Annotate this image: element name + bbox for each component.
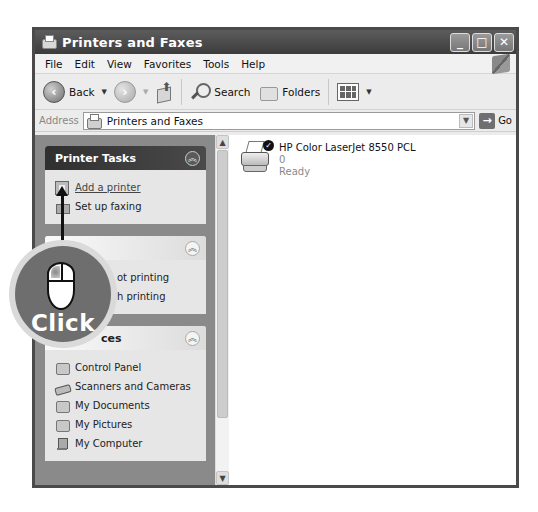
window-title: Printers and Faxes <box>62 35 203 50</box>
printer-status: Ready <box>279 166 416 178</box>
click-label: Click <box>17 310 109 336</box>
folders-button[interactable]: Folders <box>254 83 324 101</box>
task-label: Scanners and Cameras <box>75 381 191 392</box>
my-documents-link[interactable]: My Documents <box>55 396 198 415</box>
back-button[interactable]: ‹ Back <box>39 81 99 103</box>
menu-tools[interactable]: Tools <box>197 58 235 70</box>
printers-folder-icon <box>41 35 57 49</box>
default-printer-check-icon: ✓ <box>263 140 274 151</box>
menu-help[interactable]: Help <box>235 58 271 70</box>
computer-icon <box>55 437 69 451</box>
menu-view[interactable]: View <box>101 58 138 70</box>
scroll-up-icon[interactable]: ▲ <box>216 135 229 149</box>
printer-name: HP Color LaserJet 8550 PCL <box>279 142 416 154</box>
address-dropdown-icon[interactable]: ▼ <box>459 114 473 128</box>
back-dropdown-icon[interactable]: ▼ <box>99 88 110 96</box>
address-input[interactable]: Printers and Faxes ▼ <box>83 112 475 130</box>
scroll-thumb[interactable] <box>217 150 228 418</box>
go-button[interactable]: → Go <box>479 113 512 129</box>
task-label: My Pictures <box>75 419 132 430</box>
views-icon <box>337 83 359 101</box>
my-computer-link[interactable]: My Computer <box>55 434 198 453</box>
go-label: Go <box>498 115 512 126</box>
menu-bar: File Edit View Favorites Tools Help <box>35 54 516 74</box>
printer-tasks-panel: Printer Tasks ︽ Add a printer Set up fax… <box>45 146 206 224</box>
search-label: Search <box>214 86 250 98</box>
search-button[interactable]: Search <box>186 82 254 102</box>
left-mouse-button-icon <box>51 266 60 278</box>
go-arrow-icon: → <box>479 113 495 129</box>
set-up-faxing-link[interactable]: Set up faxing <box>55 197 198 216</box>
address-bar: Address Printers and Faxes ▼ → Go <box>35 110 516 132</box>
search-icon <box>190 82 210 102</box>
menu-file[interactable]: File <box>39 58 69 70</box>
my-pictures-link[interactable]: My Pictures <box>55 415 198 434</box>
collapse-icon[interactable]: ︽ <box>185 331 200 346</box>
toolbar-separator <box>328 79 329 105</box>
task-label: h printing <box>117 291 165 302</box>
task-label: Set up faxing <box>75 201 142 212</box>
forward-button[interactable]: › <box>110 81 140 103</box>
printer-documents: 0 <box>279 154 416 166</box>
printers-folder-icon <box>87 114 103 128</box>
address-label: Address <box>39 115 79 126</box>
scanner-icon <box>55 380 69 394</box>
control-panel-link[interactable]: Control Panel <box>55 358 198 377</box>
task-label: Control Panel <box>75 362 141 373</box>
callout-arrow-icon <box>56 186 68 196</box>
menu-edit[interactable]: Edit <box>69 58 101 70</box>
scanners-and-cameras-link[interactable]: Scanners and Cameras <box>55 377 198 396</box>
printer-tasks-header[interactable]: Printer Tasks ︽ <box>45 146 206 170</box>
address-value: Printers and Faxes <box>107 115 203 127</box>
views-dropdown-icon: ▼ <box>363 88 374 96</box>
up-folder-button[interactable] <box>151 82 177 102</box>
task-label: My Documents <box>75 400 150 411</box>
printer-list: ✓ HP Color LaserJet 8550 PCL 0 Ready <box>229 135 516 485</box>
printer-item[interactable]: ✓ HP Color LaserJet 8550 PCL 0 Ready <box>239 141 506 178</box>
collapse-icon[interactable]: ︽ <box>185 151 200 166</box>
folders-icon <box>258 83 278 101</box>
up-folder-icon <box>155 82 173 102</box>
maximize-button[interactable]: □ <box>472 33 492 52</box>
forward-arrow-icon: › <box>114 81 136 103</box>
menu-favorites[interactable]: Favorites <box>138 58 197 70</box>
back-label: Back <box>69 86 95 98</box>
get-help-printing-link[interactable]: h printing <box>117 287 198 306</box>
scroll-down-icon[interactable]: ▼ <box>216 471 229 485</box>
explorer-window: Printers and Faxes _ □ ✕ File Edit View … <box>32 27 519 488</box>
documents-icon <box>55 399 69 413</box>
task-label: Add a printer <box>75 182 141 193</box>
panel-title: Printer Tasks <box>55 152 136 165</box>
back-arrow-icon: ‹ <box>43 81 65 103</box>
minimize-button[interactable]: _ <box>450 33 470 52</box>
folders-label: Folders <box>282 86 320 98</box>
control-panel-icon <box>55 361 69 375</box>
windows-logo-icon <box>492 54 510 75</box>
task-label: ot printing <box>117 272 169 283</box>
toolbar: ‹ Back ▼ › ▼ Search Folders ▼ <box>35 74 516 110</box>
title-bar: Printers and Faxes _ □ ✕ <box>35 30 516 54</box>
printer-icon: ✓ <box>239 141 273 175</box>
add-printer-link[interactable]: Add a printer <box>55 178 198 197</box>
views-button[interactable]: ▼ <box>333 83 378 101</box>
task-label: My Computer <box>75 438 142 449</box>
close-button[interactable]: ✕ <box>494 33 514 52</box>
collapse-icon[interactable]: ︽ <box>185 241 200 256</box>
toolbar-separator <box>181 79 182 105</box>
forward-dropdown-icon[interactable]: ▼ <box>140 88 151 96</box>
pictures-icon <box>55 418 69 432</box>
troubleshoot-printing-link[interactable]: ot printing <box>117 268 198 287</box>
task-pane-scrollbar[interactable]: ▲ ▼ <box>215 135 229 485</box>
